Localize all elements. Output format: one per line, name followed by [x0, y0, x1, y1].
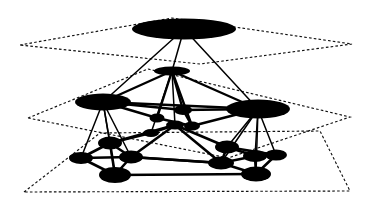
intra-level-edge [175, 125, 221, 163]
graph-node[interactable] [98, 137, 122, 150]
graph-node[interactable] [162, 68, 182, 74]
graph-node[interactable] [69, 152, 93, 164]
graph-node[interactable] [150, 114, 165, 123]
graph-node[interactable] [166, 121, 184, 130]
intra-level-edge [131, 157, 221, 163]
graph-node[interactable] [208, 157, 234, 170]
graph-node[interactable] [265, 150, 287, 161]
graph-node[interactable] [132, 19, 236, 40]
graph-node[interactable] [184, 122, 200, 131]
graph-node[interactable] [75, 94, 131, 111]
graph-node[interactable] [243, 150, 267, 162]
inter-level-edge [184, 29, 258, 109]
graph-node[interactable] [119, 151, 143, 164]
graph-node[interactable] [215, 141, 239, 154]
inter-level-edge [103, 29, 184, 102]
graph-node[interactable] [174, 105, 192, 115]
intra-level-edge [115, 174, 256, 175]
graph-node[interactable] [241, 167, 271, 182]
graph-node[interactable] [99, 167, 131, 183]
diagram-canvas [0, 0, 374, 205]
graph-node[interactable] [143, 129, 159, 137]
graph-node[interactable] [226, 100, 290, 119]
hierarchical-graph-svg [0, 0, 374, 205]
intra-level-edge [157, 71, 172, 118]
